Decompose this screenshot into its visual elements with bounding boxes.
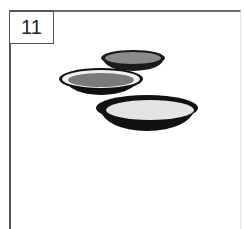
back-plate-icon (101, 50, 165, 71)
front-bowl-icon (96, 95, 198, 131)
plates-illustration (0, 0, 244, 229)
middle-plate-icon (59, 68, 143, 95)
